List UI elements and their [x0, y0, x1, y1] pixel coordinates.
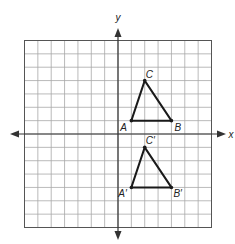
vertex-label: B	[174, 122, 181, 133]
y-axis-arrow-down-icon	[115, 231, 122, 240]
vertex-point	[130, 186, 134, 190]
vertex-label: B′	[173, 188, 183, 199]
x-axis-arrow-right-icon	[217, 131, 226, 138]
y-axis-label: y	[115, 12, 122, 23]
x-axis-arrow-left-icon	[10, 131, 19, 138]
vertex-label: A	[119, 122, 127, 133]
vertex-point	[130, 119, 134, 123]
triangle-outline	[131, 147, 171, 187]
triangle-outline	[131, 81, 171, 121]
triangle-abc-group: ABC	[119, 69, 181, 133]
y-axis-arrow-up-icon	[115, 28, 122, 37]
triangle-abc-group: A′B′C′	[117, 135, 183, 199]
vertex-label: A′	[117, 188, 128, 199]
vertex-label: C	[146, 69, 154, 80]
vertex-label: C′	[146, 135, 156, 146]
vertex-point	[170, 119, 174, 123]
x-axis-label: x	[228, 129, 235, 140]
coordinate-plane: x y ABCA′B′C′	[0, 0, 235, 244]
